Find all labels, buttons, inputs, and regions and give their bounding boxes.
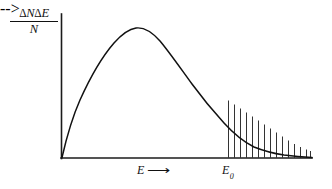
y-axis-numerator-e: E [41, 6, 48, 20]
threshold-label-subscript: 0 [230, 172, 234, 181]
energy-distribution-figure: ΔNΔE N --> E ⟶ E0 [0, 0, 332, 189]
threshold-energy-label: E0 [222, 163, 233, 179]
distribution-curve [62, 28, 312, 158]
y-axis-label-denominator: N [9, 22, 59, 36]
y-axis-label-numerator: ΔNΔE [9, 7, 59, 21]
x-axis-label-symbol: E [137, 163, 144, 178]
tail-hatch-group [229, 101, 311, 159]
y-axis-label: ΔNΔE N [9, 7, 59, 35]
x-axis-label: E ⟶ [137, 163, 163, 178]
right-arrow-icon: ⟶ [147, 163, 169, 178]
threshold-label-symbol: E [222, 163, 229, 177]
